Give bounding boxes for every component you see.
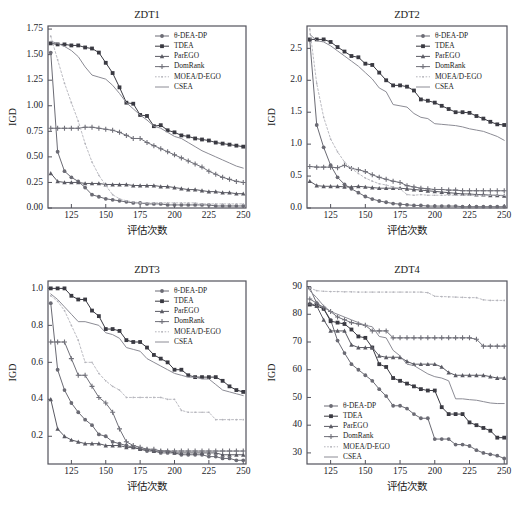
x-tick-label: 250 bbox=[497, 210, 512, 220]
legend-label: TDEA bbox=[174, 296, 194, 305]
y-tick-label: 0.50 bbox=[26, 151, 43, 161]
legend-label: CSEA bbox=[343, 452, 363, 461]
legend-label: DomRank bbox=[174, 61, 205, 70]
x-tick-label: 200 bbox=[167, 466, 182, 476]
legend-label: θ-DEA-DP bbox=[435, 31, 468, 40]
y-tick-label: 1.0 bbox=[290, 138, 302, 148]
series-domrank bbox=[48, 125, 246, 185]
y-tick-label: 30 bbox=[293, 447, 303, 457]
series-csea bbox=[310, 291, 504, 404]
x-tick-label: 200 bbox=[428, 466, 443, 476]
legend-label: θ-DEA-DP bbox=[174, 31, 207, 40]
x-tick-label: 150 bbox=[358, 210, 373, 220]
legend-label: DomRank bbox=[174, 316, 205, 325]
legend-label: ParEGO bbox=[435, 51, 461, 60]
y-tick-label: 90 bbox=[293, 281, 303, 291]
y-tick-label: 1.00 bbox=[26, 100, 43, 110]
legend-label: MOEA/D-EGO bbox=[174, 327, 221, 336]
y-tick-label: 1.5 bbox=[290, 106, 302, 116]
legend-label: TDEA bbox=[343, 411, 363, 420]
x-tick-label: 225 bbox=[462, 466, 477, 476]
y-tick-label: 40 bbox=[293, 419, 303, 429]
x-axis-label: 评估次数 bbox=[387, 224, 428, 236]
chart-panel-zdt3: ZDT30.20.40.60.81.0125150175200225250评估次… bbox=[0, 255, 259, 511]
x-axis-label: 评估次数 bbox=[387, 480, 428, 492]
x-axis-label: 评估次数 bbox=[127, 224, 168, 236]
y-tick-label: 0.4 bbox=[31, 393, 43, 403]
x-tick-label: 175 bbox=[393, 466, 408, 476]
y-tick-label: 0.75 bbox=[26, 126, 43, 136]
y-tick-label: 2.0 bbox=[290, 74, 302, 84]
legend-label: ParEGO bbox=[343, 421, 369, 430]
legend-label: θ-DEA-DP bbox=[174, 286, 207, 295]
y-tick-label: 2.5 bbox=[290, 43, 302, 53]
x-tick-label: 150 bbox=[358, 466, 373, 476]
series-domrank bbox=[48, 340, 246, 454]
x-tick-label: 200 bbox=[167, 210, 182, 220]
y-tick-label: 1.0 bbox=[31, 283, 43, 293]
y-tick-label: 1.50 bbox=[26, 49, 43, 59]
y-tick-label: 1.25 bbox=[26, 74, 43, 84]
x-tick-label: 125 bbox=[323, 210, 338, 220]
y-tick-label: 70 bbox=[293, 336, 303, 346]
legend-label: ParEGO bbox=[174, 51, 200, 60]
chart-legend: θ-DEA-DPTDEAParEGODomRankMOEA/D-EGOCSEA bbox=[416, 31, 482, 91]
x-tick-label: 225 bbox=[462, 210, 477, 220]
y-tick-label: 0.6 bbox=[31, 357, 43, 367]
x-tick-label: 175 bbox=[133, 210, 148, 220]
y-tick-label: 0.25 bbox=[26, 177, 43, 187]
x-tick-label: 175 bbox=[393, 210, 408, 220]
x-tick-label: 225 bbox=[202, 210, 217, 220]
y-tick-label: 0.5 bbox=[290, 170, 302, 180]
series-moea-d-ego bbox=[50, 295, 244, 421]
series--dea-dp bbox=[308, 38, 506, 208]
y-axis-label: IGD bbox=[266, 108, 277, 126]
chart-title: ZDT3 bbox=[134, 264, 160, 275]
chart-title: ZDT1 bbox=[134, 9, 160, 20]
y-tick-label: 1.75 bbox=[26, 23, 43, 33]
x-tick-label: 250 bbox=[236, 210, 251, 220]
y-axis-label: IGD bbox=[7, 108, 18, 126]
x-tick-label: 175 bbox=[133, 466, 148, 476]
legend-label: DomRank bbox=[343, 431, 374, 440]
x-axis-label: 评估次数 bbox=[127, 480, 168, 492]
x-tick-label: 150 bbox=[99, 210, 114, 220]
chart-legend: θ-DEA-DPTDEAParEGODomRankMOEA/D-EGOCSEA bbox=[155, 31, 221, 91]
chart-panel-zdt4: ZDT430405060708090125150175200225250评估次数… bbox=[259, 255, 519, 511]
chart-legend: θ-DEA-DPTDEAParEGODomRankMOEA/D-EGOCSEA bbox=[155, 286, 221, 346]
chart-title: ZDT2 bbox=[394, 9, 420, 20]
series-moea-d-ego bbox=[309, 28, 505, 196]
legend-label: θ-DEA-DP bbox=[343, 401, 376, 410]
x-tick-label: 125 bbox=[64, 466, 79, 476]
chart-panel-zdt1: ZDT10.000.250.500.751.001.251.501.751251… bbox=[0, 0, 259, 255]
series--dea-dp bbox=[49, 301, 245, 462]
y-tick-label: 0.8 bbox=[31, 320, 43, 330]
y-tick-label: 80 bbox=[293, 308, 303, 318]
series-moea-d-ego bbox=[309, 287, 505, 301]
y-tick-label: 60 bbox=[293, 364, 303, 374]
x-tick-label: 125 bbox=[323, 466, 338, 476]
legend-label: MOEA/D-EGO bbox=[174, 72, 221, 81]
series-csea bbox=[51, 41, 244, 168]
chart-title: ZDT4 bbox=[394, 264, 420, 275]
legend-label: MOEA/D-EGO bbox=[435, 72, 482, 81]
y-tick-label: 0.0 bbox=[290, 202, 302, 212]
figure-grid: ZDT10.000.250.500.751.001.251.501.751251… bbox=[0, 0, 519, 511]
legend-label: TDEA bbox=[174, 41, 194, 50]
legend-label: CSEA bbox=[435, 82, 455, 91]
chart-legend: θ-DEA-DPTDEAParEGODomRankMOEA/D-EGOCSEA bbox=[324, 401, 390, 461]
x-tick-label: 150 bbox=[99, 466, 114, 476]
legend-label: CSEA bbox=[174, 82, 194, 91]
x-tick-label: 250 bbox=[236, 466, 251, 476]
x-tick-label: 225 bbox=[202, 466, 217, 476]
x-tick-label: 125 bbox=[64, 210, 79, 220]
y-tick-label: 0.00 bbox=[26, 202, 43, 212]
legend-label: MOEA/D-EGO bbox=[343, 442, 390, 451]
legend-label: ParEGO bbox=[174, 306, 200, 315]
y-axis-label: IGD bbox=[266, 364, 277, 382]
legend-label: CSEA bbox=[174, 337, 194, 346]
legend-label: DomRank bbox=[435, 61, 466, 70]
x-tick-label: 200 bbox=[428, 210, 443, 220]
plot-frame bbox=[48, 281, 246, 464]
legend-label: TDEA bbox=[435, 41, 455, 50]
